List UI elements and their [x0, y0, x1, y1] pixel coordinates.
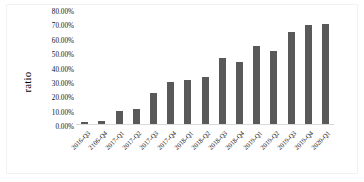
- y-axis-tick-label: 80.00%: [34, 9, 74, 16]
- x-tick-slot: 2106-Q4: [93, 126, 110, 178]
- x-tick-slot: 2018-Q1: [179, 126, 196, 178]
- y-axis-tick-label: 30.00%: [34, 81, 74, 88]
- bar: [150, 93, 157, 124]
- x-axis-baseline: [76, 124, 334, 125]
- bar: [305, 25, 312, 124]
- y-axis-tick-label: 20.00%: [34, 96, 74, 103]
- bar-chart-figure: ratio 80.00%70.00%60.00%50.00%40.00%30.0…: [0, 0, 364, 182]
- x-tick-slot: 2016-Q3: [76, 126, 93, 178]
- bar: [81, 122, 88, 124]
- bar-slot: [128, 17, 145, 124]
- bar-slot: [196, 17, 213, 124]
- x-tick-slot: 2017-Q3: [145, 126, 162, 178]
- bar-slot: [145, 17, 162, 124]
- bar: [167, 82, 174, 124]
- y-axis-tick-label: 70.00%: [34, 24, 74, 31]
- bar-slot: [214, 17, 231, 124]
- x-tick-slot: 2020-Q1: [317, 126, 334, 178]
- x-tick-slot: 2017-Q4: [162, 126, 179, 178]
- bar-slot: [231, 17, 248, 124]
- x-tick-slot: 2019-Q4: [300, 126, 317, 178]
- bar: [288, 32, 295, 124]
- x-tick-slot: 2018-Q4: [231, 126, 248, 178]
- x-tick-slot: 2018-Q2: [196, 126, 213, 178]
- bar-slot: [265, 17, 282, 124]
- bar: [219, 58, 226, 124]
- bar: [236, 62, 243, 124]
- bar: [133, 109, 140, 124]
- y-axis-tick-label: 0.00%: [34, 124, 74, 131]
- bar: [322, 24, 329, 124]
- bar-series: [76, 17, 334, 124]
- bar: [202, 77, 209, 124]
- bar: [98, 121, 105, 124]
- bar-slot: [179, 17, 196, 124]
- bar-slot: [93, 17, 110, 124]
- bar-slot: [282, 17, 299, 124]
- bar-slot: [248, 17, 265, 124]
- plot-area: [76, 17, 334, 124]
- bar: [184, 80, 191, 124]
- y-axis-tick-label: 40.00%: [34, 67, 74, 74]
- y-axis-tick-label: 10.00%: [34, 110, 74, 117]
- bar-slot: [76, 17, 93, 124]
- bar: [270, 51, 277, 124]
- bar: [253, 46, 260, 124]
- y-axis-title: ratio: [21, 27, 35, 137]
- bar-slot: [110, 17, 127, 124]
- bar-slot: [317, 17, 334, 124]
- x-tick-slot: 2017-Q1: [110, 126, 127, 178]
- y-axis-tick-label: 60.00%: [34, 38, 74, 45]
- x-tick-slot: 2019-Q3: [282, 126, 299, 178]
- bar-slot: [162, 17, 179, 124]
- x-tick-slot: 2018-Q3: [214, 126, 231, 178]
- y-axis-tick-label: 50.00%: [34, 53, 74, 60]
- bar: [116, 111, 123, 124]
- x-tick-slot: 2019-Q2: [265, 126, 282, 178]
- y-axis-tick-labels: 80.00%70.00%60.00%50.00%40.00%30.00%20.0…: [34, 13, 74, 128]
- x-axis-tick-labels: 2016-Q32106-Q42017-Q12017-Q22017-Q32017-…: [76, 126, 334, 178]
- bar-slot: [300, 17, 317, 124]
- x-tick-slot: 2017-Q2: [128, 126, 145, 178]
- x-tick-slot: 2019-Q1: [248, 126, 265, 178]
